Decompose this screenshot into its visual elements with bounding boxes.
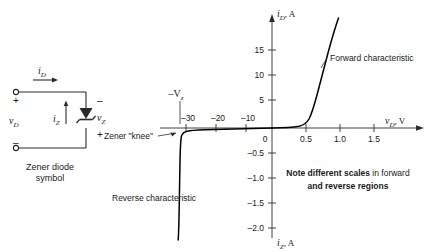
zener-circuit-diagram: iD vD iZ vZ + – – + Zener diode symbol bbox=[9, 65, 105, 183]
x-tick-label-1: 1.0 bbox=[334, 134, 346, 144]
y-ticks-positive: 5 10 15 bbox=[255, 45, 276, 105]
label-vZ: vZ bbox=[97, 112, 105, 126]
x-tick-label-neg-2: –10 bbox=[241, 113, 255, 123]
circuit-caption-line1: Zener diode bbox=[26, 162, 74, 172]
polarity-plus-top: + bbox=[13, 95, 19, 106]
y-tick-label-neg-2: –1.5 bbox=[247, 198, 264, 208]
y-tick-label-1: 10 bbox=[255, 70, 265, 80]
x-ticks-positive: 0.5 1.0 1.5 bbox=[300, 124, 380, 144]
y-axis-arrow-icon bbox=[269, 14, 275, 22]
scale-note-line2: and reverse regions bbox=[308, 181, 389, 191]
zener-bend-right-icon bbox=[93, 116, 96, 120]
x-tick-label-2: 1.5 bbox=[368, 134, 380, 144]
x-tick-label-0: 0.5 bbox=[300, 134, 312, 144]
forward-characteristic-label: Forward characteristic bbox=[330, 53, 414, 63]
iv-characteristic-chart: vD, V iD, A iZ, A 0.5 1.0 1.5 0 –30 –20 … bbox=[104, 8, 424, 251]
polarity-plus-diode: + bbox=[97, 129, 103, 140]
zener-current-arrow-head-icon bbox=[64, 101, 69, 107]
y-tick-label-0: 5 bbox=[259, 95, 264, 105]
x-axis-arrow-icon bbox=[416, 125, 424, 131]
current-arrow-head-icon bbox=[52, 78, 58, 83]
breakdown-voltage-label: –Vz bbox=[168, 88, 184, 102]
zener-knee-label: Zener "knee" bbox=[104, 131, 153, 141]
label-iZ: iZ bbox=[53, 113, 60, 127]
y-tick-label-neg-1: –1.0 bbox=[247, 173, 264, 183]
diode-triangle-icon bbox=[80, 108, 93, 119]
circuit-caption-line2: symbol bbox=[36, 173, 65, 183]
y-tick-label-neg-3: –2.0 bbox=[247, 223, 264, 233]
y-tick-label-2: 15 bbox=[255, 45, 265, 55]
terminal-top bbox=[13, 89, 18, 94]
scale-note-line1: Note different scales in forward bbox=[286, 168, 410, 178]
knee-arrow-head-icon bbox=[171, 132, 177, 136]
x-tick-label-neg-1: –20 bbox=[211, 113, 225, 123]
y-axis-label-upper: iD, A bbox=[277, 8, 296, 22]
x-tick-label-neg-0: –30 bbox=[181, 113, 195, 123]
origin-label: 0 bbox=[263, 134, 268, 144]
polarity-minus-diode: – bbox=[97, 95, 103, 106]
zener-bend-left-icon bbox=[77, 120, 80, 124]
label-vD: vD bbox=[9, 115, 19, 129]
polarity-minus-bottom: – bbox=[13, 137, 19, 148]
forward-characteristic-curve bbox=[272, 18, 339, 128]
x-axis-label: vD, V bbox=[385, 115, 406, 129]
label-iD: iD bbox=[38, 65, 46, 79]
zener-diode-figure: iD vD iZ vZ + – – + Zener diode symbol v… bbox=[0, 0, 441, 252]
reverse-characteristic-label: Reverse characteristic bbox=[112, 193, 197, 203]
y-tick-label-neg-0: –0.5 bbox=[247, 148, 264, 158]
y-axis-label-lower: iZ, A bbox=[277, 237, 295, 251]
